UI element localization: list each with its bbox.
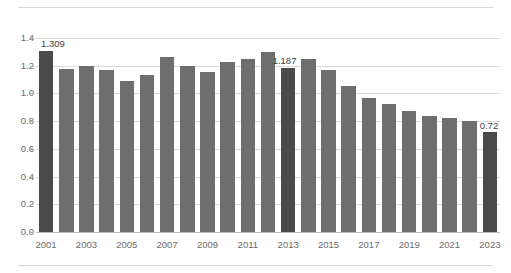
bar-value-label: 1.187 bbox=[273, 56, 297, 66]
bar[interactable] bbox=[382, 104, 397, 232]
bar-rect bbox=[120, 81, 135, 232]
y-tick-mark bbox=[30, 204, 34, 205]
bar-rect bbox=[462, 121, 477, 232]
bar[interactable] bbox=[39, 51, 54, 232]
x-tick-label: 2001 bbox=[36, 240, 57, 250]
x-tick-label: 2011 bbox=[238, 240, 258, 250]
x-tick-label: 2021 bbox=[439, 240, 460, 250]
y-tick-mark bbox=[30, 232, 34, 233]
bottom-divider-rule bbox=[18, 265, 493, 266]
bar[interactable] bbox=[281, 68, 296, 232]
bar-chart-figure: 0.00.20.40.60.81.01.21.4 1.3091.1870.72 … bbox=[0, 0, 511, 273]
y-tick-mark bbox=[30, 66, 34, 67]
bar[interactable] bbox=[59, 69, 74, 233]
bar-rect bbox=[402, 111, 417, 232]
bar[interactable] bbox=[422, 116, 437, 232]
bar-rect bbox=[422, 116, 437, 232]
bar-rect bbox=[321, 70, 336, 232]
x-tick-label: 2007 bbox=[157, 240, 178, 250]
bar[interactable] bbox=[341, 86, 356, 232]
y-tick-mark bbox=[30, 38, 34, 39]
x-tick-label: 2013 bbox=[278, 240, 299, 250]
bar-rect bbox=[79, 66, 94, 232]
bar-rect bbox=[261, 52, 276, 232]
bar[interactable] bbox=[321, 70, 336, 232]
bar[interactable] bbox=[402, 111, 417, 232]
y-tick-mark bbox=[30, 121, 34, 122]
bar-value-label: 1.309 bbox=[41, 39, 65, 49]
bar[interactable] bbox=[462, 121, 477, 232]
x-tick-label: 2019 bbox=[399, 240, 420, 250]
bar-rect bbox=[341, 86, 356, 232]
bar[interactable] bbox=[160, 57, 175, 232]
bar-rect bbox=[99, 70, 114, 232]
bar[interactable] bbox=[99, 70, 114, 232]
bar-rect bbox=[220, 62, 235, 232]
x-tick-label: 2005 bbox=[116, 240, 137, 250]
bar-rect bbox=[382, 104, 397, 232]
x-tick-label: 2003 bbox=[76, 240, 97, 250]
bar[interactable] bbox=[301, 59, 316, 232]
bar-rect bbox=[442, 118, 457, 232]
y-tick-mark bbox=[30, 149, 34, 150]
y-axis: 0.00.20.40.60.81.01.21.4 bbox=[0, 38, 34, 232]
bar-rect-highlighted bbox=[281, 68, 296, 232]
bar[interactable] bbox=[241, 59, 256, 232]
bar-rect bbox=[200, 72, 215, 232]
y-tick-mark bbox=[30, 177, 34, 178]
x-tick-label: 2017 bbox=[358, 240, 379, 250]
bar-rect bbox=[301, 59, 316, 232]
bar[interactable] bbox=[180, 66, 195, 232]
bar[interactable] bbox=[140, 75, 155, 232]
bar-series: 1.3091.1870.72 bbox=[36, 38, 500, 232]
bar[interactable] bbox=[120, 81, 135, 232]
bar-rect bbox=[140, 75, 155, 232]
bar-rect bbox=[160, 57, 175, 232]
bar[interactable] bbox=[362, 98, 377, 232]
bar-rect bbox=[180, 66, 195, 232]
bar-rect bbox=[241, 59, 256, 232]
plot-area: 1.3091.1870.72 bbox=[36, 38, 500, 232]
x-axis: 2001200320052007200920112013201520172019… bbox=[36, 234, 500, 256]
y-tick-mark bbox=[30, 93, 34, 94]
x-tick-label: 2023 bbox=[479, 240, 500, 250]
bar-value-label: 0.72 bbox=[480, 121, 499, 131]
bar[interactable] bbox=[261, 52, 276, 232]
bar[interactable] bbox=[200, 72, 215, 232]
bar[interactable] bbox=[220, 62, 235, 232]
bar[interactable] bbox=[79, 66, 94, 232]
bar-rect-highlighted bbox=[39, 51, 54, 232]
bar[interactable] bbox=[483, 132, 498, 232]
bar-rect-highlighted bbox=[483, 132, 498, 232]
x-tick-label: 2015 bbox=[318, 240, 339, 250]
x-tick-label: 2009 bbox=[197, 240, 218, 250]
bar-rect bbox=[59, 69, 74, 233]
bar[interactable] bbox=[442, 118, 457, 232]
top-divider-rule bbox=[18, 7, 493, 8]
x-axis-baseline bbox=[36, 232, 500, 233]
bar-rect bbox=[362, 98, 377, 232]
